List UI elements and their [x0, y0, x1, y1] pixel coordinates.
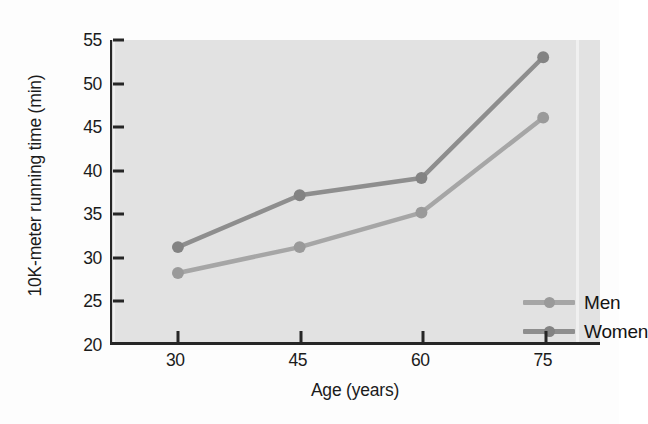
x-tick-mark — [177, 331, 180, 342]
y-tick-label: 55 — [52, 30, 102, 51]
x-tick-label: 60 — [385, 350, 455, 371]
legend-marker-icon — [523, 295, 575, 311]
y-tick-mark — [113, 300, 124, 303]
x-tick-label: 45 — [263, 350, 333, 371]
legend-item-women: Women — [523, 317, 648, 346]
y-axis-title: 10K-meter running time (min) — [25, 21, 46, 351]
data-point-men — [172, 267, 184, 279]
data-point-men — [294, 241, 306, 253]
y-tick-label: 35 — [52, 204, 102, 225]
scan-artifact-band — [576, 40, 579, 342]
x-axis-title: Age (years) — [110, 380, 600, 401]
series-line-men — [178, 118, 543, 273]
y-tick-label: 40 — [52, 160, 102, 181]
series-line-women — [178, 57, 543, 247]
y-tick-mark — [113, 213, 124, 216]
data-point-women — [294, 189, 306, 201]
legend-marker-icon — [523, 324, 575, 340]
x-tick-mark — [544, 331, 547, 342]
x-axis-tick-labels: 30456075 — [110, 350, 600, 376]
y-tick-label: 30 — [52, 247, 102, 268]
x-tick-mark — [422, 331, 425, 342]
data-point-men — [537, 112, 549, 124]
y-tick-label: 25 — [52, 291, 102, 312]
data-point-men — [415, 207, 427, 219]
scan-artifact-band — [112, 40, 115, 342]
y-tick-mark — [113, 126, 124, 129]
legend-label: Men — [584, 292, 620, 314]
data-point-women — [415, 172, 427, 184]
legend-item-men: Men — [523, 288, 648, 317]
chart-legend: MenWomen — [523, 288, 648, 346]
y-tick-label: 45 — [52, 117, 102, 138]
y-tick-mark — [113, 169, 124, 172]
data-point-women — [537, 51, 549, 63]
y-tick-mark — [113, 256, 124, 259]
y-tick-mark — [113, 39, 124, 42]
y-tick-label: 50 — [52, 73, 102, 94]
x-tick-label: 75 — [508, 350, 578, 371]
y-axis-tick-labels: 2025303540455055 — [52, 28, 102, 358]
y-tick-mark — [113, 82, 124, 85]
x-tick-label: 30 — [140, 350, 210, 371]
data-point-women — [172, 241, 184, 253]
plot-area: MenWomen — [110, 40, 600, 345]
legend-label: Women — [584, 321, 648, 343]
y-tick-label: 20 — [52, 335, 102, 356]
legend-dot — [544, 297, 555, 308]
x-tick-mark — [299, 331, 302, 342]
